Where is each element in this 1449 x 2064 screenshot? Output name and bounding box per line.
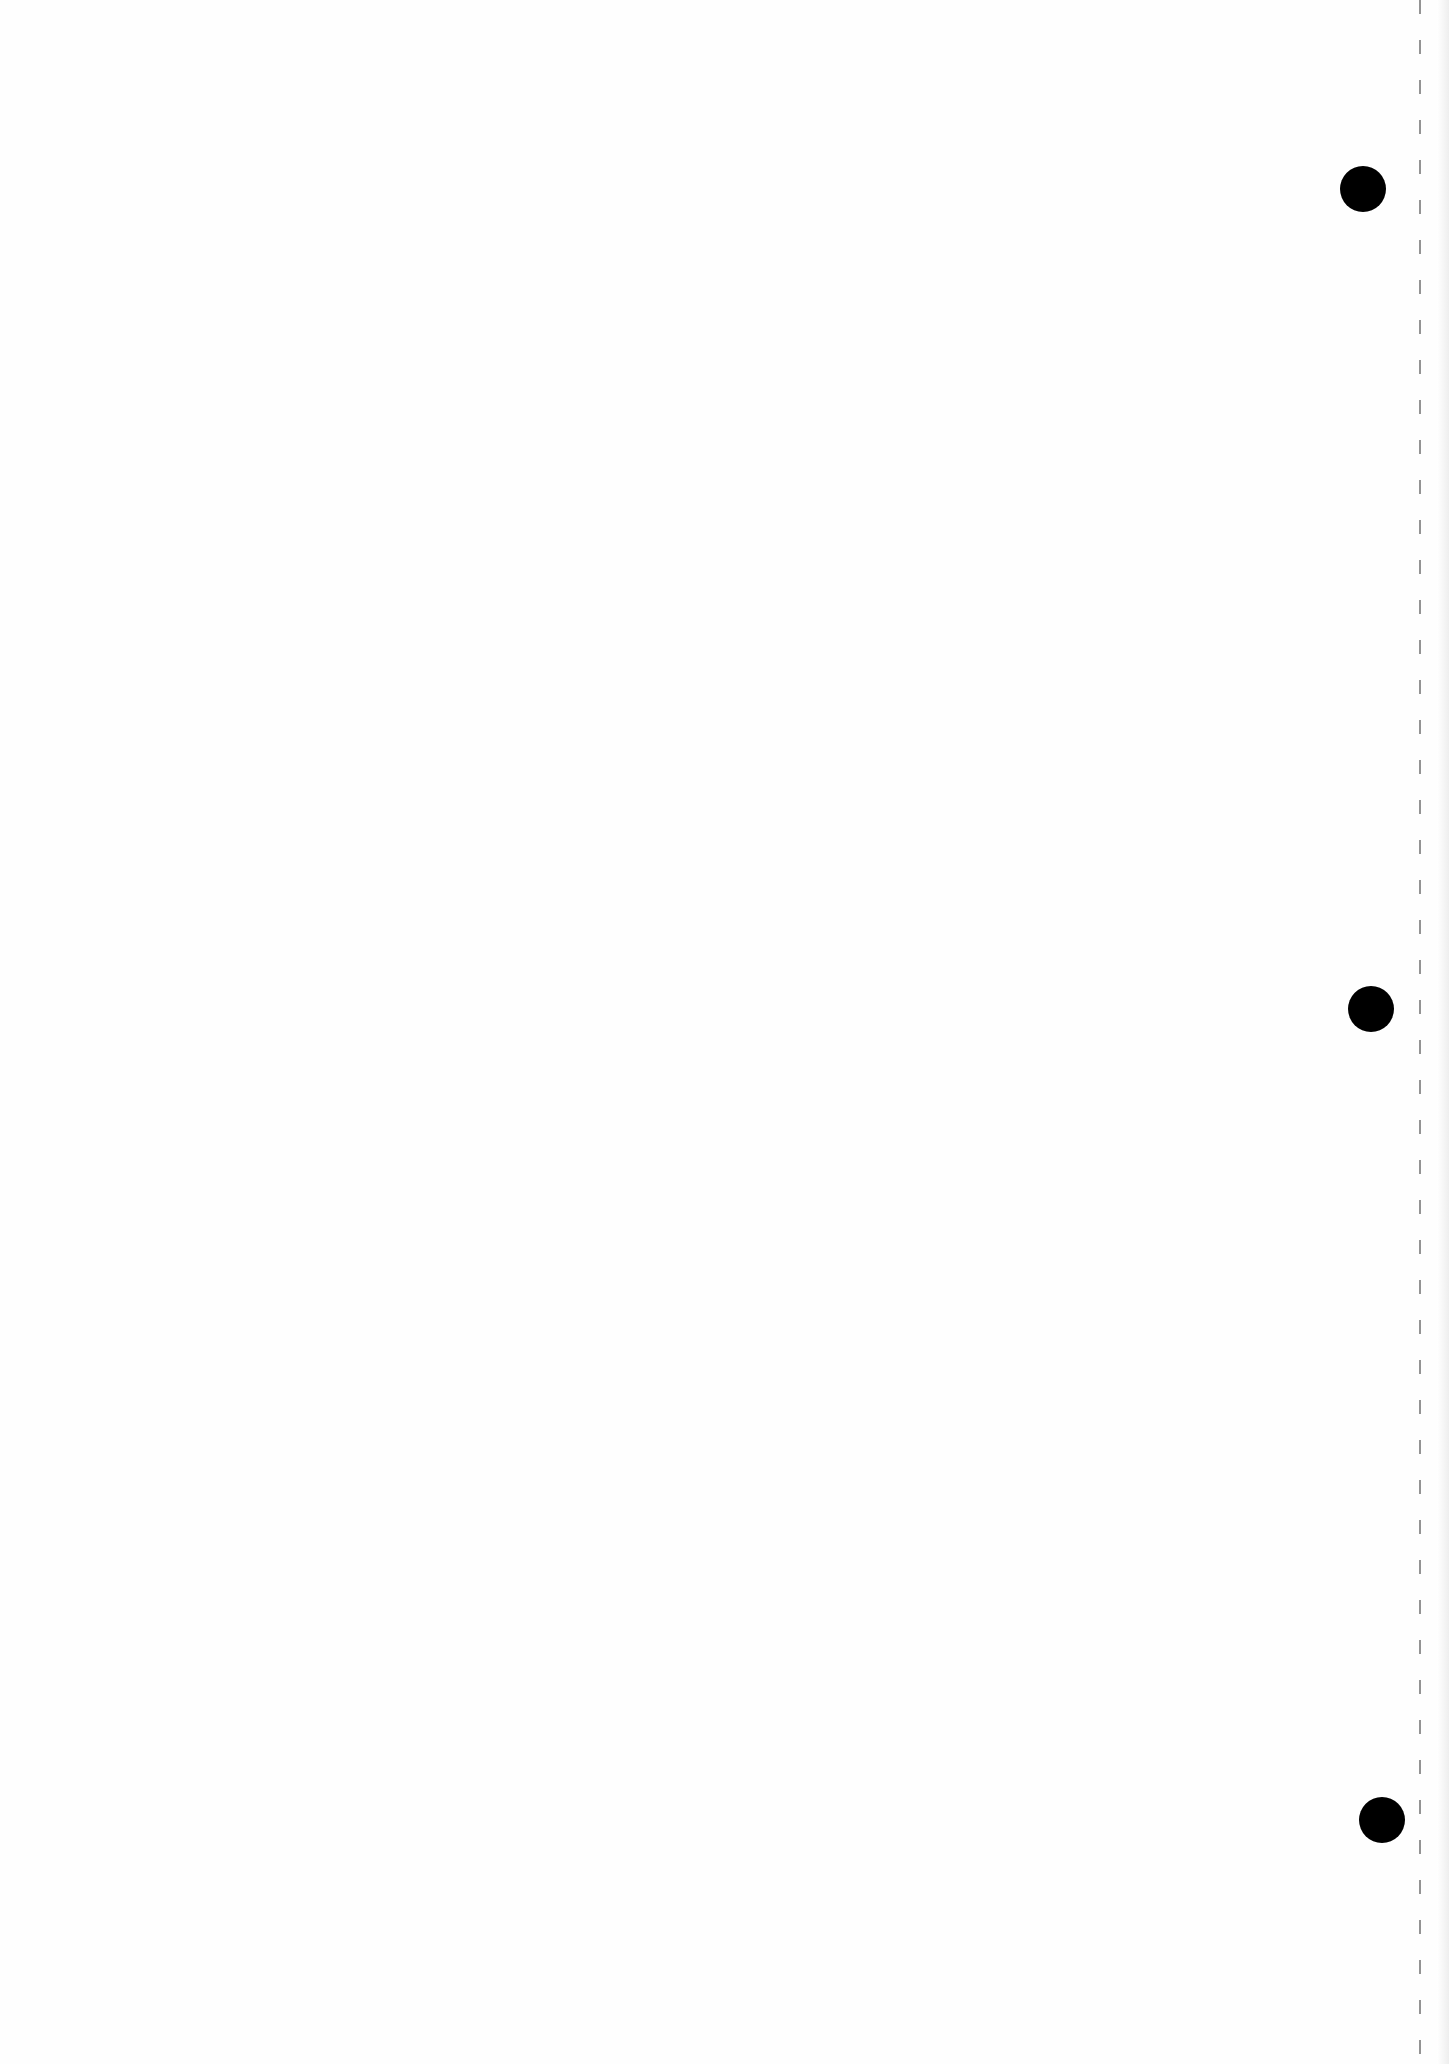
perforation-line	[1419, 0, 1421, 2064]
blank-page	[0, 0, 1449, 2064]
page-edge	[1437, 0, 1449, 2064]
punch-hole-bottom	[1359, 1797, 1405, 1843]
punch-hole-middle	[1348, 986, 1394, 1032]
punch-hole-top	[1340, 166, 1386, 212]
